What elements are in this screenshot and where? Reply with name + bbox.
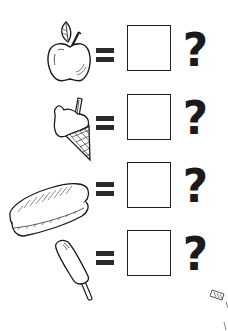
equals-sign — [96, 116, 114, 130]
worksheet: ? — [0, 0, 228, 331]
equals-bar-top — [96, 251, 114, 256]
question-mark-icon: ? — [183, 29, 208, 71]
ice-cream-cone-icon — [52, 96, 94, 162]
hot-dog-icon — [4, 180, 90, 242]
equals-bar-top — [96, 48, 114, 53]
apple-icon — [46, 20, 92, 84]
equals-bar-bottom — [96, 125, 114, 130]
question-mark-icon: ? — [183, 165, 208, 207]
equals-sign — [96, 182, 114, 196]
answer-box-apple[interactable] — [127, 25, 171, 71]
cropped-decoration-fragment — [210, 286, 228, 331]
question-mark-icon: ? — [183, 233, 208, 275]
answer-box-ice-cream[interactable] — [127, 94, 171, 140]
question-mark-icon: ? — [183, 97, 208, 139]
equals-sign — [96, 251, 114, 265]
equals-sign — [96, 48, 114, 62]
answer-box-popsicle[interactable] — [127, 230, 171, 276]
equals-bar-bottom — [96, 57, 114, 62]
equals-bar-bottom — [96, 191, 114, 196]
equals-bar-top — [96, 116, 114, 121]
answer-box-hot-dog[interactable] — [127, 162, 171, 208]
equals-bar-top — [96, 182, 114, 187]
equals-bar-bottom — [96, 260, 114, 265]
popsicle-icon — [52, 238, 96, 302]
